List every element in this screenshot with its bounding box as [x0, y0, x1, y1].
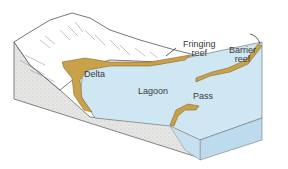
label-barrier-reef: Barrier reef: [229, 46, 256, 64]
label-fringing-reef: Fringing reef: [183, 40, 216, 58]
label-fringing-line2: reef: [183, 49, 216, 58]
reef-block-diagram: Fringing reef Barrier reef Delta Lagoon …: [0, 0, 288, 169]
label-lagoon: Lagoon: [138, 87, 168, 96]
label-pass: Pass: [193, 92, 213, 101]
label-delta: Delta: [84, 70, 105, 79]
label-barrier-line2: reef: [229, 55, 256, 64]
diagram-canvas: [0, 0, 288, 169]
